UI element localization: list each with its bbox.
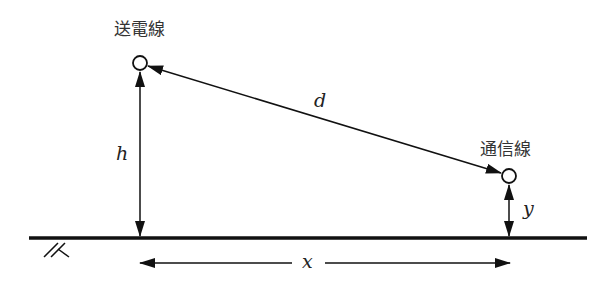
horizontal-x-label: x <box>302 250 313 272</box>
height-h-label: h <box>116 142 128 164</box>
ground-hatch-icon <box>44 243 69 257</box>
height-y-label: y <box>522 197 534 219</box>
distance-diagram: 送電線 通信線 d h y x <box>0 0 605 284</box>
power-line-point-icon <box>133 56 147 70</box>
comm-line-point-icon <box>502 169 516 183</box>
power-line-label: 送電線 <box>114 19 165 39</box>
distance-d-label: d <box>314 89 326 111</box>
distance-d-arrow <box>148 66 501 173</box>
comm-line-label: 通信線 <box>480 139 531 159</box>
